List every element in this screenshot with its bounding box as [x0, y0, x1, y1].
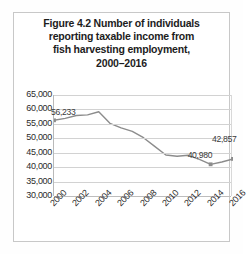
data-label: 40,980 — [188, 150, 213, 160]
x-axis-tick-label: 2004 — [93, 188, 113, 208]
x-axis-tick-label: 2006 — [115, 188, 135, 208]
x-axis-tick-label: 2002 — [70, 188, 90, 208]
annotations-layer: 56,23340,98042,8572000200220042006200820… — [0, 0, 243, 254]
x-axis-tick-label: 2014 — [205, 188, 225, 208]
data-label: 56,233 — [51, 107, 76, 117]
x-axis-tick-label: 2010 — [160, 188, 180, 208]
x-axis-tick-label: 2000 — [48, 188, 68, 208]
x-axis-tick-label: 2012 — [182, 188, 202, 208]
figure-container: Figure 4.2 Number of individuals reporti… — [0, 0, 243, 254]
data-label: 42,857 — [212, 134, 237, 144]
x-axis-tick-label: 2008 — [138, 188, 158, 208]
x-axis-tick-label: 2016 — [227, 188, 243, 208]
